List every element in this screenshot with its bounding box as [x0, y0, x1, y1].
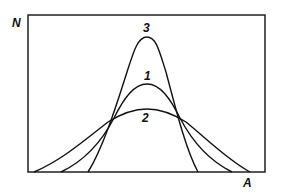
curve-3-label: 3 — [143, 21, 150, 35]
y-axis-label: N — [12, 16, 21, 30]
x-axis-label: A — [242, 176, 252, 190]
curve-1-label: 1 — [144, 69, 151, 83]
plot-frame — [28, 15, 265, 172]
distribution-chart: N A 3 1 2 — [0, 0, 285, 196]
curve-3 — [88, 37, 198, 172]
curve-2-label: 2 — [141, 111, 149, 125]
curve-1 — [61, 84, 232, 172]
